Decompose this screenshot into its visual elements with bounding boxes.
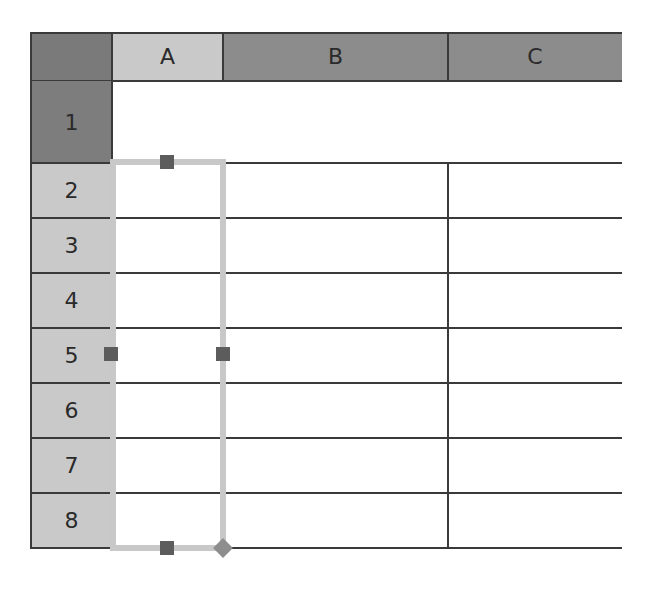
grid-line xyxy=(31,272,622,274)
header-divider xyxy=(111,32,113,81)
select-all-corner[interactable] xyxy=(31,32,112,81)
row-header-label: 3 xyxy=(65,233,79,258)
column-header-b[interactable]: B xyxy=(223,32,448,81)
column-header-c[interactable]: C xyxy=(448,32,622,81)
column-header-a[interactable]: A xyxy=(112,32,223,81)
header-divider xyxy=(222,32,224,81)
grid-line xyxy=(31,382,622,384)
row-header-6[interactable]: 6 xyxy=(31,383,112,438)
cell-b2[interactable] xyxy=(224,164,447,217)
spreadsheet: A B C 1 2 3 4 5 6 7 8 xyxy=(0,0,655,595)
row-header-label: 1 xyxy=(65,110,79,135)
row-header-4[interactable]: 4 xyxy=(31,273,112,328)
row-header-8[interactable]: 8 xyxy=(31,493,112,548)
row-header-label: 2 xyxy=(65,178,79,203)
grid-line xyxy=(31,327,622,329)
column-header-label: A xyxy=(160,44,175,69)
column-header-label: C xyxy=(527,44,542,69)
selection-handle-left[interactable] xyxy=(104,347,118,361)
row-header-left-border xyxy=(30,32,32,549)
header-divider xyxy=(447,32,449,81)
row-header-2[interactable]: 2 xyxy=(31,163,112,218)
cell-row-1[interactable] xyxy=(113,82,622,163)
row-header-1[interactable]: 1 xyxy=(31,81,112,163)
grid-line xyxy=(31,437,622,439)
header-top-border xyxy=(31,32,622,34)
selection-handle-bottom[interactable] xyxy=(160,541,174,555)
grid-line xyxy=(447,162,449,549)
column-header-label: B xyxy=(328,44,343,69)
selection-handle-right[interactable] xyxy=(216,347,230,361)
row-header-label: 4 xyxy=(65,288,79,313)
cell-c2[interactable] xyxy=(449,164,622,217)
cell-a2[interactable] xyxy=(113,164,222,217)
grid-line xyxy=(31,492,622,494)
fill-handle-icon[interactable] xyxy=(213,538,233,558)
row-header-5[interactable]: 5 xyxy=(31,328,112,383)
row-header-label: 6 xyxy=(65,398,79,423)
selection-handle-top[interactable] xyxy=(160,155,174,169)
row-header-7[interactable]: 7 xyxy=(31,438,112,493)
row-header-label: 5 xyxy=(65,343,79,368)
row-header-label: 8 xyxy=(65,508,79,533)
row-header-3[interactable]: 3 xyxy=(31,218,112,273)
row-header-label: 7 xyxy=(65,453,79,478)
grid-line xyxy=(31,217,622,219)
